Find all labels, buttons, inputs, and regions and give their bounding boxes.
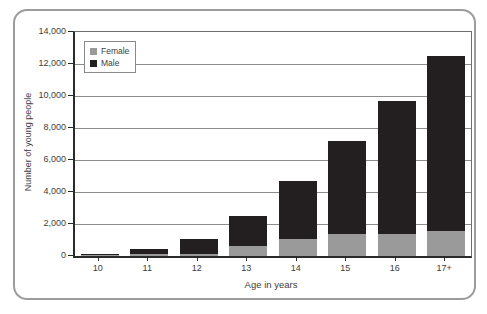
bar-segment-male-16 xyxy=(378,101,416,234)
x-tick-mark xyxy=(197,257,198,261)
x-tick-label: 17+ xyxy=(424,263,464,274)
x-tick-label: 13 xyxy=(226,263,266,274)
x-tick-mark xyxy=(345,257,346,261)
legend-item-female: Female xyxy=(90,46,129,56)
figure-panel: Number of young people 02,0004,0006,0008… xyxy=(13,9,476,300)
bar-segment-female-13 xyxy=(229,246,267,256)
y-tick-mark xyxy=(68,127,73,128)
x-tick-label: 14 xyxy=(276,263,316,274)
x-tick-mark xyxy=(246,257,247,261)
bar-segment-female-16 xyxy=(378,234,416,256)
x-tick-mark xyxy=(395,257,396,261)
x-tick-label: 11 xyxy=(127,263,167,274)
legend: Female Male xyxy=(84,41,136,73)
female-swatch-icon xyxy=(90,48,97,55)
bar-segment-female-11 xyxy=(130,254,168,256)
y-tick-mark xyxy=(68,255,73,256)
y-tick-label: 10,000 xyxy=(24,90,66,101)
x-tick-mark xyxy=(296,257,297,261)
y-tick-mark xyxy=(68,63,73,64)
y-tick-label: 6,000 xyxy=(24,154,66,165)
y-tick-mark xyxy=(68,95,73,96)
x-tick-label: 16 xyxy=(375,263,415,274)
x-tick-label: 12 xyxy=(177,263,217,274)
y-tick-label: 0 xyxy=(24,250,66,261)
bar-segment-female-17+ xyxy=(427,231,465,256)
y-tick-label: 14,000 xyxy=(24,26,66,37)
x-axis-title: Age in years xyxy=(73,279,469,290)
bar-segment-male-10 xyxy=(81,254,119,256)
gridline xyxy=(75,96,471,97)
bar-segment-male-14 xyxy=(279,181,317,239)
male-swatch-icon xyxy=(90,60,97,67)
x-tick-mark xyxy=(147,257,148,261)
x-tick-mark xyxy=(98,257,99,261)
y-tick-mark xyxy=(68,191,73,192)
legend-label-male: Male xyxy=(101,58,119,68)
legend-label-female: Female xyxy=(101,46,129,56)
bar-segment-male-13 xyxy=(229,216,267,246)
legend-item-male: Male xyxy=(90,58,129,68)
bar-segment-female-14 xyxy=(279,239,317,256)
y-tick-mark xyxy=(68,159,73,160)
bar-segment-male-15 xyxy=(328,141,366,235)
bar-segment-female-15 xyxy=(328,234,366,256)
x-tick-mark xyxy=(444,257,445,261)
bar-segment-female-10 xyxy=(81,255,119,256)
y-tick-label: 8,000 xyxy=(24,122,66,133)
bar-segment-male-11 xyxy=(130,249,168,255)
y-tick-label: 4,000 xyxy=(24,186,66,197)
y-tick-mark xyxy=(68,223,73,224)
y-tick-label: 12,000 xyxy=(24,58,66,69)
bar-segment-female-12 xyxy=(180,254,218,256)
y-tick-mark xyxy=(68,31,73,32)
bar-segment-male-12 xyxy=(180,239,218,253)
x-tick-label: 15 xyxy=(325,263,365,274)
bar-segment-male-17+ xyxy=(427,56,465,231)
y-tick-label: 2,000 xyxy=(24,218,66,229)
x-tick-label: 10 xyxy=(78,263,118,274)
